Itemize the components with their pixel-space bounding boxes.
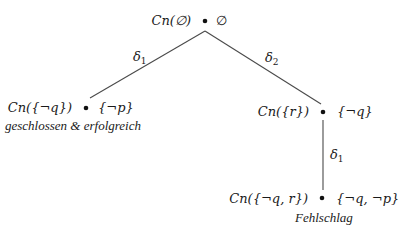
node-right-set: {¬q} xyxy=(337,104,373,119)
edge-label-right-bottom: δ1 xyxy=(330,147,344,164)
node-left-set: {¬p} xyxy=(98,100,134,115)
node-bottom: Cn({¬q, r}) {¬q, ¬p} Fehlschlag xyxy=(229,191,399,225)
node-bottom-status: Fehlschlag xyxy=(294,210,353,225)
node-root: Cn(∅) ∅ xyxy=(152,13,227,28)
node-bottom-theory: Cn({¬q, r}) xyxy=(229,191,308,206)
process-tree-diagram: δ1 δ2 δ1 Cn(∅) ∅ Cn({¬q}) {¬p} geschloss… xyxy=(0,0,403,237)
node-right: Cn({r}) {¬q} xyxy=(258,104,373,119)
node-left-theory: Cn({¬q}) xyxy=(8,100,72,115)
node-bottom-dot xyxy=(320,196,325,201)
edge-root-left xyxy=(90,31,205,98)
node-root-dot xyxy=(203,19,208,24)
node-bottom-set: {¬q, ¬p} xyxy=(336,191,399,206)
edge-label-root-right: δ2 xyxy=(265,50,279,67)
edge-root-right xyxy=(205,31,321,104)
node-right-theory: Cn({r}) xyxy=(258,104,309,119)
node-root-set: ∅ xyxy=(216,13,227,28)
node-left-dot xyxy=(84,106,89,111)
edge-label-root-left: δ1 xyxy=(133,49,147,66)
node-left: Cn({¬q}) {¬p} geschlossen & erfolgreich xyxy=(5,100,141,133)
node-right-dot xyxy=(321,110,326,115)
node-left-status: geschlossen & erfolgreich xyxy=(5,118,141,133)
node-root-theory: Cn(∅) xyxy=(152,13,191,28)
